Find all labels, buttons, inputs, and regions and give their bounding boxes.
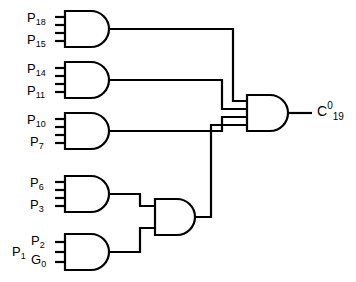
logic-diagram-canvas: P18 P15 P14 P11 P10 P7 P6 P3 P1 P2 G0 C0… xyxy=(0,0,356,282)
wire-merge-to-output xyxy=(195,125,247,217)
circuit-schematic xyxy=(0,0,356,282)
input-label-p7: P7 xyxy=(30,135,44,148)
input-label-p10: P10 xyxy=(27,113,46,126)
and-gate-3-body xyxy=(55,113,247,149)
input-label-p6: P6 xyxy=(30,176,44,189)
and-gate-1-body xyxy=(55,11,247,101)
wire-gate4-to-merge xyxy=(109,194,155,206)
and-gate-2-body xyxy=(55,62,247,109)
and-gate-6-body xyxy=(155,125,247,235)
wire-gate2-to-output xyxy=(109,80,247,109)
input-label-p1: P1 xyxy=(12,245,26,258)
and-gate-4-body xyxy=(55,176,155,212)
and-gate-output-body xyxy=(247,95,312,131)
input-label-p11: P11 xyxy=(27,84,45,97)
input-label-p3: P3 xyxy=(30,198,44,211)
input-label-p2: P2 xyxy=(31,234,45,247)
wire-gate1-to-output xyxy=(109,29,247,101)
input-label-p15: P15 xyxy=(27,33,46,46)
input-label-g0: G0 xyxy=(31,253,46,266)
output-label-c19: C019 xyxy=(317,104,344,118)
input-label-p14: P14 xyxy=(27,62,46,75)
input-label-p18: P18 xyxy=(27,11,46,24)
and-gate-5-body xyxy=(55,228,155,270)
wire-gate5-to-merge xyxy=(109,228,155,252)
